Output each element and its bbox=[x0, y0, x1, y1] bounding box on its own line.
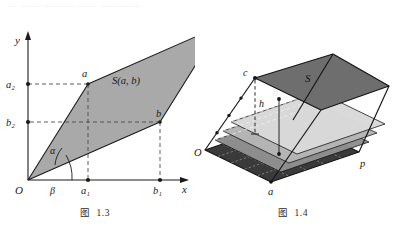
point-label-a1: a₁ bbox=[81, 185, 90, 196]
label-O: O bbox=[194, 147, 202, 158]
angle-alpha-label: α bbox=[50, 145, 56, 156]
figure-1-4: c h S O p a b bbox=[193, 4, 399, 229]
tick-dot-a2 bbox=[26, 82, 30, 86]
top-face-S bbox=[255, 54, 389, 110]
label-h: h bbox=[259, 98, 264, 109]
vertex-dot-b bbox=[158, 120, 162, 124]
tick-dot-b1 bbox=[158, 178, 162, 182]
y-axis-arrow bbox=[25, 31, 31, 40]
figure-page: — —— ——— —— ———— bbox=[0, 0, 399, 229]
point-label-a: a bbox=[82, 68, 87, 79]
figure-1-4-svg: c h S O p a b bbox=[193, 4, 399, 204]
y-axis-label: y bbox=[14, 34, 20, 46]
figure-1-3: y x O a b a₁ b₁ a₂ b₂ α β S(a, b) bbox=[0, 4, 195, 229]
vertex-dot-a3d bbox=[269, 180, 273, 184]
x-axis-label: x bbox=[181, 183, 187, 195]
point-label-a2: a₂ bbox=[6, 79, 15, 90]
angle-beta-label: β bbox=[49, 185, 55, 196]
point-dot-b-foot bbox=[277, 152, 281, 156]
edge-marker-dot bbox=[227, 114, 230, 117]
label-p: p bbox=[359, 158, 365, 169]
vertex-dot-c bbox=[253, 76, 257, 80]
point-label-b2: b₂ bbox=[6, 117, 15, 128]
caption-label-13: 图 bbox=[80, 207, 91, 218]
edge-marker-dot bbox=[239, 96, 242, 99]
origin-label: O bbox=[15, 184, 23, 196]
caption-number-13: 1.3 bbox=[97, 208, 110, 218]
caption-number-14: 1.4 bbox=[295, 208, 308, 218]
area-label: S(a, b) bbox=[112, 75, 140, 87]
tick-dot-b2 bbox=[26, 120, 30, 124]
figure-1-4-caption: 图1.4 bbox=[193, 205, 393, 219]
point-label-b: b bbox=[156, 108, 161, 119]
point-label-b1: b₁ bbox=[153, 185, 162, 196]
figure-1-3-caption: 图1.3 bbox=[0, 205, 190, 219]
parallelogram-shape bbox=[28, 26, 195, 180]
caption-label-14: 图 bbox=[278, 207, 289, 218]
vertex-dot-a bbox=[86, 82, 90, 86]
label-S: S bbox=[305, 72, 311, 84]
label-b-3d: b bbox=[273, 87, 278, 98]
edge-marker-dot bbox=[215, 131, 218, 134]
label-a-3d: a bbox=[268, 186, 273, 197]
label-c: c bbox=[243, 67, 248, 78]
tick-dot-a1 bbox=[86, 178, 90, 182]
figure-1-3-svg: y x O a b a₁ b₁ a₂ b₂ α β S(a, b) bbox=[0, 4, 195, 204]
